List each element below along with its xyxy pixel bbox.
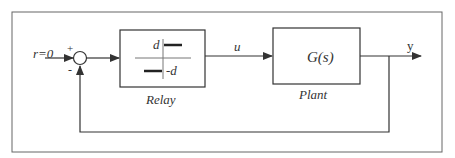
relay-lower-label: -d	[166, 63, 177, 78]
control-signal-label: u	[234, 39, 241, 54]
sum-plus-sign: +	[67, 42, 73, 54]
block-diagram: r=0 + - d -d Relay u G(s) Plant y	[0, 0, 455, 158]
sum-minus-sign: -	[68, 63, 72, 77]
plant-caption: Plant	[298, 87, 328, 102]
input-label: r=0	[33, 46, 54, 61]
relay-caption: Relay	[145, 92, 176, 107]
relay-upper-label: d	[153, 37, 160, 52]
output-label: y	[407, 38, 414, 53]
summing-junction	[74, 52, 87, 65]
diagram-frame	[12, 12, 442, 152]
plant-transfer-function: G(s)	[307, 49, 334, 66]
